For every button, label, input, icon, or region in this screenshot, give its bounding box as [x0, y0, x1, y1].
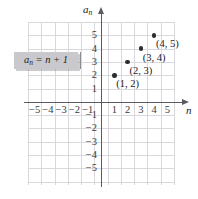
formula-text: an = n + 1: [24, 54, 68, 68]
formula-callout: an = n + 1: [14, 52, 78, 69]
gridline-vertical: [147, 22, 148, 185]
gridline-vertical: [121, 22, 122, 185]
y-axis-arrow-icon: [98, 7, 104, 14]
y-axis-label-subscript: n: [89, 8, 93, 17]
y-axis-label: an: [83, 4, 92, 18]
x-tick-label: −5: [28, 105, 42, 115]
x-tick-label: −4: [41, 105, 55, 115]
data-point: [139, 46, 144, 51]
x-tick-label: 4: [147, 105, 161, 115]
gridline-vertical: [134, 22, 135, 185]
y-tick-label: −4: [83, 150, 97, 160]
x-tick-label: −3: [54, 105, 68, 115]
y-tick-label: 2: [83, 70, 97, 80]
data-point-label: (2, 3): [130, 65, 153, 76]
x-tick-label: −2: [67, 105, 81, 115]
data-point: [112, 73, 117, 78]
y-tick-label: 5: [83, 30, 97, 40]
x-tick-label: 3: [134, 105, 148, 115]
x-axis-label: n: [186, 105, 192, 116]
y-tick-label: −5: [83, 163, 97, 173]
y-tick-label: 4: [83, 44, 97, 54]
x-axis-line: [24, 102, 182, 103]
data-point: [125, 60, 130, 65]
x-tick-label: 1: [107, 105, 121, 115]
y-tick-label: −3: [83, 137, 97, 147]
data-point-label: (1, 2): [116, 78, 139, 89]
data-point: [152, 33, 157, 38]
y-tick-label: −1: [83, 110, 97, 120]
x-tick-label: 2: [121, 105, 135, 115]
sequence-graph-figure: ann−5−4−3−2−11234554321−1−2−3−4−5(1, 2)(…: [0, 0, 198, 199]
gridline-vertical: [108, 22, 109, 185]
y-axis-line: [101, 14, 102, 187]
callout-leader-line: [80, 52, 81, 69]
data-point-label: (4, 5): [156, 38, 179, 49]
x-tick-label: 5: [160, 105, 174, 115]
y-tick-label: −2: [83, 123, 97, 133]
formula-rest: = n + 1: [33, 54, 68, 65]
y-tick-label: 3: [83, 57, 97, 67]
y-tick-label: 1: [83, 84, 97, 94]
data-point-label: (3, 4): [143, 52, 166, 63]
